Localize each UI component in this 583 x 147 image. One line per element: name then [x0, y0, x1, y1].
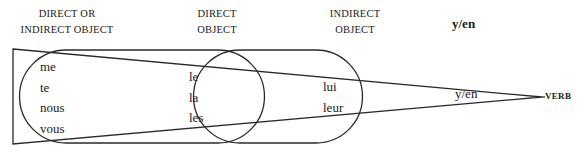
- pronoun-vous: vous: [40, 120, 65, 141]
- pronoun-leur: leur: [323, 99, 343, 120]
- group-direct-or-indirect: me te nous vous: [40, 58, 65, 140]
- group-direct: le la les: [189, 68, 203, 130]
- venn-diagram-shapes: [0, 0, 583, 147]
- pronoun-me: me: [40, 58, 65, 79]
- pronoun-te: te: [40, 79, 65, 100]
- verb-label: VERB: [545, 91, 571, 101]
- pronoun-la: la: [189, 89, 203, 110]
- pronoun-lui: lui: [323, 78, 343, 99]
- pronoun-les: les: [189, 109, 203, 130]
- y-en-label: y/en: [455, 86, 477, 102]
- group-indirect: lui leur: [323, 78, 343, 119]
- pronoun-le: le: [189, 68, 203, 89]
- pronoun-nous: nous: [40, 99, 65, 120]
